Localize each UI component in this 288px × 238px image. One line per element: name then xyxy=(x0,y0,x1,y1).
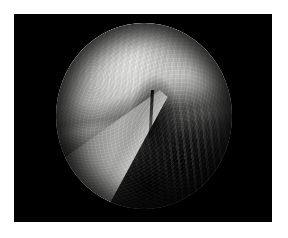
endoscope-field-of-view xyxy=(56,23,232,209)
scope-vignette xyxy=(56,23,232,209)
page-root xyxy=(0,0,288,238)
endoscope-video-frame xyxy=(14,14,272,222)
